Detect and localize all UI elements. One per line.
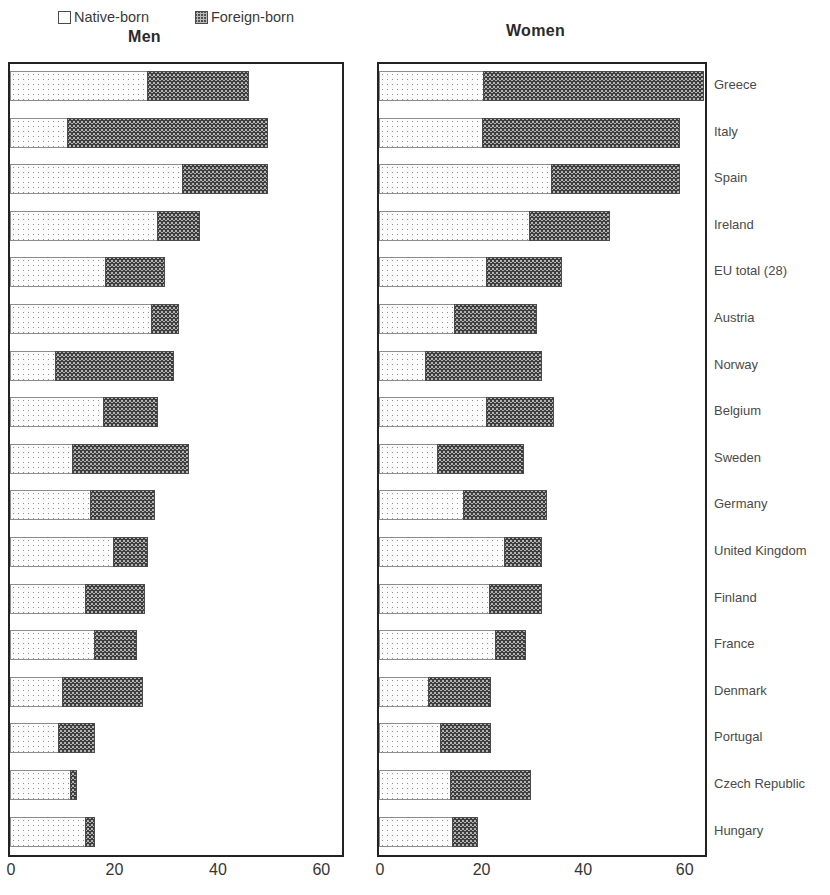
bar-segment-foreign-born: [454, 304, 537, 334]
bar-segment-foreign-born: [437, 444, 524, 474]
x-tick-label: 20: [106, 861, 124, 879]
bar-segment-native-born: [379, 164, 552, 194]
bar-row: [379, 444, 524, 474]
bar-row: [10, 490, 155, 520]
category-label: Spain: [714, 171, 747, 184]
bar-segment-native-born: [10, 304, 152, 334]
bar-segment-foreign-born: [85, 584, 145, 614]
bar-segment-foreign-born: [529, 211, 610, 241]
x-tick-label: 60: [676, 861, 694, 879]
category-label: Portugal: [714, 730, 762, 743]
bar-row: [379, 537, 542, 567]
bar-segment-native-born: [379, 723, 441, 753]
category-label: Czech Republic: [714, 777, 805, 790]
bar-segment-native-born: [379, 304, 455, 334]
bar-segment-foreign-born: [103, 397, 159, 427]
bar-row: [379, 770, 531, 800]
bar-segment-foreign-born: [94, 630, 137, 660]
bar-segment-foreign-born: [55, 351, 174, 381]
bar-row: [10, 304, 179, 334]
bar-segment-native-born: [10, 770, 71, 800]
bar-segment-native-born: [379, 397, 487, 427]
bar-segment-foreign-born: [450, 770, 531, 800]
bar-segment-foreign-born: [62, 677, 144, 707]
bar-row: [379, 351, 542, 381]
bar-segment-native-born: [379, 444, 438, 474]
x-tick-label: 0: [376, 861, 385, 879]
bar-row: [10, 71, 249, 101]
bar-segment-foreign-born: [67, 118, 268, 148]
bar-segment-foreign-born: [452, 817, 477, 847]
category-label: Hungary: [714, 824, 763, 837]
bar-row: [10, 257, 165, 287]
legend-item-foreign-born: Foreign-born: [195, 9, 294, 25]
category-label: Finland: [714, 591, 757, 604]
bar-segment-foreign-born: [157, 211, 200, 241]
bar-segment-native-born: [379, 351, 426, 381]
bar-row: [379, 211, 610, 241]
bar-segment-native-born: [379, 630, 496, 660]
bar-segment-foreign-born: [483, 71, 704, 101]
bar-segment-native-born: [10, 490, 91, 520]
bar-segment-native-born: [10, 444, 73, 474]
category-label: Greece: [714, 78, 757, 91]
bar-segment-native-born: [10, 351, 56, 381]
bar-segment-native-born: [379, 677, 429, 707]
bar-segment-native-born: [10, 257, 106, 287]
plot-area-women: [377, 62, 707, 857]
bar-row: [379, 817, 478, 847]
bar-segment-foreign-born: [425, 351, 542, 381]
legend-label-native-born: Native-born: [74, 9, 149, 25]
bar-row: [10, 723, 95, 753]
category-axis-labels: GreeceItalySpainIrelandEU total (28)Aust…: [714, 62, 830, 857]
bar-segment-native-born: [10, 723, 59, 753]
bar-row: [379, 490, 547, 520]
bar-row: [379, 71, 704, 101]
bar-segment-foreign-born: [70, 770, 78, 800]
bar-segment-native-born: [10, 630, 95, 660]
bar-segment-native-born: [379, 770, 451, 800]
category-label: EU total (28): [714, 264, 787, 277]
category-label: France: [714, 637, 754, 650]
bar-row: [10, 211, 200, 241]
bar-segment-foreign-born: [72, 444, 189, 474]
bar-segment-native-born: [10, 71, 148, 101]
category-label: Denmark: [714, 684, 767, 697]
category-label: Belgium: [714, 404, 761, 417]
bar-segment-native-born: [10, 164, 183, 194]
bar-segment-native-born: [10, 677, 63, 707]
bar-segment-native-born: [379, 211, 530, 241]
bar-segment-native-born: [379, 490, 464, 520]
category-label: Ireland: [714, 218, 754, 231]
bar-segment-native-born: [379, 257, 487, 287]
bar-segment-foreign-born: [482, 118, 680, 148]
bar-segment-foreign-born: [58, 723, 96, 753]
category-label: United Kingdom: [714, 544, 807, 557]
bar-row: [10, 537, 148, 567]
bar-row: [10, 817, 95, 847]
bar-rows-men: [10, 64, 342, 855]
chart-legend: Native-born Foreign-born: [0, 4, 700, 30]
bar-row: [379, 723, 491, 753]
bar-segment-foreign-born: [151, 304, 178, 334]
x-tick-label: 40: [209, 861, 227, 879]
x-axis-women: 0204060: [377, 861, 707, 887]
bar-row: [10, 444, 189, 474]
bar-segment-foreign-born: [440, 723, 491, 753]
bar-segment-foreign-born: [428, 677, 491, 707]
legend-label-foreign-born: Foreign-born: [211, 9, 294, 25]
bar-row: [10, 164, 268, 194]
x-tick-label: 40: [574, 861, 592, 879]
category-label: Sweden: [714, 451, 761, 464]
bar-segment-native-born: [10, 817, 86, 847]
category-label: Italy: [714, 125, 738, 138]
bar-segment-foreign-born: [486, 257, 562, 287]
plot-area-men: [8, 62, 344, 857]
bar-row: [10, 584, 145, 614]
bar-segment-foreign-born: [551, 164, 680, 194]
panel-title-women: Women: [506, 22, 565, 40]
x-tick-label: 60: [312, 861, 330, 879]
bar-segment-native-born: [10, 584, 86, 614]
category-label: Germany: [714, 497, 767, 510]
bar-segment-native-born: [379, 584, 490, 614]
